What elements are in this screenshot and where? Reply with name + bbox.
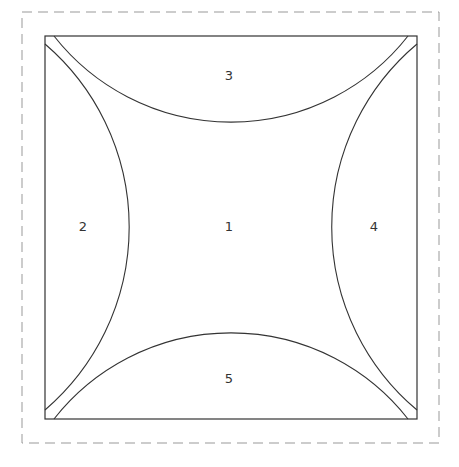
region-label-bottom: 5 (225, 371, 233, 386)
region-label-right: 4 (370, 219, 378, 234)
region-label-left: 2 (79, 219, 87, 234)
region-label-top: 3 (225, 68, 233, 83)
region-label-center: 1 (225, 219, 233, 234)
diagram-canvas: 1 2 3 4 5 (0, 0, 459, 467)
